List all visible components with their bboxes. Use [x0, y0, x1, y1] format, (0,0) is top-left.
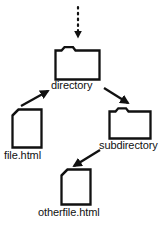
node-label-file: file.html	[4, 149, 41, 161]
folder-icon-directory	[56, 47, 100, 79]
edge-directory-to-subdirectory	[104, 88, 128, 103]
arrow-down-right-icon	[104, 88, 128, 103]
node-label-subdirectory: subdirectory	[99, 139, 158, 151]
node-label-otherfile: otherfile.html	[38, 206, 100, 218]
arrowhead-down-icon	[74, 31, 82, 39]
edge-parent-to-directory	[74, 7, 82, 39]
edge-subdirectory-to-otherfile	[74, 150, 100, 166]
folder-icon-subdirectory	[110, 108, 151, 138]
arrow-up-right-icon	[21, 91, 48, 106]
file-icon-otherfile	[62, 170, 91, 205]
arrow-down-left-icon	[74, 150, 100, 166]
directory-tree-diagram: directory file.html subdirectory otherfi…	[0, 0, 167, 227]
file-icon-file	[13, 110, 42, 148]
edge-file-to-directory	[21, 91, 48, 106]
node-label-directory: directory	[51, 79, 92, 91]
diagram-canvas	[0, 0, 167, 227]
